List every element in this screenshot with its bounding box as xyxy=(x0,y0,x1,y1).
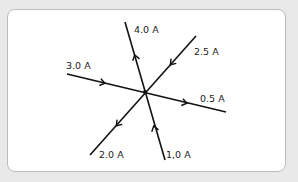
wire-diagonal xyxy=(90,36,196,155)
label-upper-right-current: 2.5 A xyxy=(194,46,219,57)
label-right-current: 0.5 A xyxy=(200,93,225,104)
label-bottom-current: 1,0 A xyxy=(166,149,191,160)
junction-diagram: 4.0 A 2.5 A 3.0 A 0.5 A 2.0 A 1,0 A xyxy=(0,0,298,182)
junction-node xyxy=(143,90,147,94)
label-top-current: 4.0 A xyxy=(134,24,159,35)
label-left-current: 3.0 A xyxy=(66,60,91,71)
label-lower-left-current: 2.0 A xyxy=(99,149,124,160)
